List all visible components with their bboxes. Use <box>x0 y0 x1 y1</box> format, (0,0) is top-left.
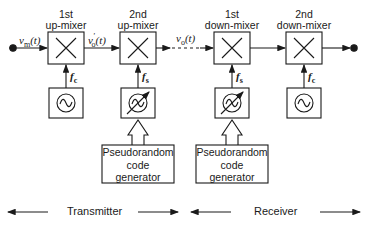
lo-3-freq-label: fs <box>236 70 243 85</box>
control-arrow-icon <box>128 120 148 145</box>
lo-4-freq-label: fc <box>308 70 315 85</box>
mixer-3-title: 1st down-mixer <box>197 9 267 31</box>
mixer-2-title: 2nd up-mixer <box>108 9 168 31</box>
mixer-3-type: down-mixer <box>197 20 267 31</box>
generator-2-label: Pseudorandom code generator <box>196 146 268 184</box>
mixer-2-type: up-mixer <box>108 20 168 31</box>
signal-intermediate-label: v'o(t) <box>88 32 106 49</box>
mixer-4-type: down-mixer <box>269 20 339 31</box>
mixer-4-title: 2nd down-mixer <box>269 9 339 31</box>
lo-2-freq-label: fs <box>142 70 149 85</box>
signal-output-label: vo(t) <box>176 32 195 47</box>
output-terminal-icon <box>351 45 357 51</box>
mixer-1-title: 1st up-mixer <box>36 9 96 31</box>
lo-1-freq-label: fc <box>70 70 77 85</box>
transmitter-label: Transmitter <box>67 205 122 217</box>
generator-1-label: Pseudorandom code generator <box>102 146 174 184</box>
signal-input-label: vm(t) <box>19 34 41 49</box>
mixer-1-type: up-mixer <box>36 20 96 31</box>
control-arrow-icon <box>222 120 242 145</box>
receiver-label: Receiver <box>254 205 297 217</box>
